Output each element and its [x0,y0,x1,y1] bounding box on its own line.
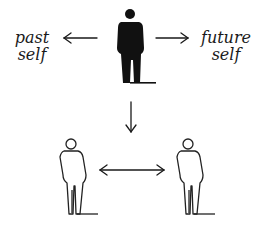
arrow-down-icon [126,102,136,132]
other-person-left-figure-icon [60,139,98,214]
other-person-right-figure-icon [177,139,215,214]
self-relations-diagram: past self future self [0,0,261,233]
arrow-left-icon [64,33,97,43]
diagram-graphics [0,0,261,233]
bidirectional-arrow-icon [100,165,164,175]
arrow-right-icon [156,33,188,43]
present-self-figure-icon [117,9,156,84]
